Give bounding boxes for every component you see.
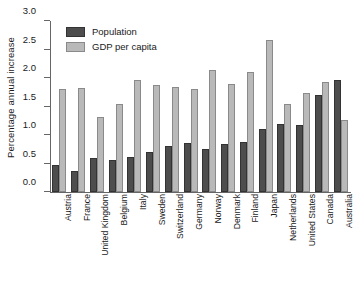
x-axis-label: Germany (194, 194, 204, 230)
bar-population (146, 152, 153, 192)
legend-label-population: Population (92, 26, 137, 37)
x-axis-label: United Kingdom (100, 194, 110, 256)
bar-group (315, 21, 329, 192)
bar-group (202, 21, 216, 192)
bar-gdp-per-capita (116, 104, 123, 192)
x-axis-label: Netherlands (288, 194, 298, 241)
bar-population (296, 125, 303, 192)
bar-group (259, 21, 273, 192)
legend-label-gdp-per-capita: GDP per capita (92, 41, 157, 52)
y-axis-tick-label: 1.0 (23, 119, 36, 130)
bar-population (52, 165, 59, 192)
bar-group (52, 21, 66, 192)
x-axis-label: Switzerland (175, 194, 185, 239)
bar-group (165, 21, 179, 192)
bar-population (202, 149, 209, 192)
y-axis-tick-label: 2.5 (23, 33, 36, 44)
bar-group (221, 21, 235, 192)
bar-gdp-per-capita (322, 82, 329, 192)
y-axis-tick-label: 0.0 (23, 176, 36, 187)
bar-population (109, 160, 116, 192)
legend-swatch-population-icon (66, 27, 85, 37)
x-axis-label: United States (307, 194, 317, 246)
bar-gdp-per-capita (153, 85, 160, 192)
bar-gdp-per-capita (97, 117, 104, 192)
x-axis-label: France (82, 194, 92, 221)
x-axis-labels: AustriaFranceUnited KingdomBelgiumItalyS… (50, 194, 350, 286)
bar-population (334, 80, 341, 192)
bar-chart-figure: Percentage annual increase 0.00.51.01.52… (0, 0, 357, 290)
bar-group (277, 21, 291, 192)
bar-gdp-per-capita (172, 87, 179, 192)
bar-gdp-per-capita (228, 84, 235, 192)
bar-group (184, 21, 198, 192)
bar-gdp-per-capita (59, 89, 66, 192)
bar-population (240, 142, 247, 192)
y-axis-tick-label: 3.0 (23, 5, 36, 16)
x-axis-label: Belgium (119, 194, 129, 225)
bar-population (259, 129, 266, 192)
bar-population (71, 171, 78, 192)
bar-population (315, 95, 322, 192)
x-axis-label: Japan (269, 194, 279, 218)
bar-population (127, 157, 134, 192)
bar-gdp-per-capita (266, 40, 273, 192)
bar-gdp-per-capita (303, 93, 310, 192)
legend-item-gdp-per-capita: GDP per capita (66, 41, 157, 52)
y-axis-tick-label: 0.5 (23, 147, 36, 158)
y-axis-title: Percentage annual increase (0, 0, 20, 195)
bar-gdp-per-capita (134, 80, 141, 192)
y-axis-tick-label: 1.5 (23, 90, 36, 101)
bar-gdp-per-capita (284, 104, 291, 192)
x-axis-label: Denmark (232, 194, 242, 229)
y-axis-title-text: Percentage annual increase (5, 37, 16, 158)
bar-gdp-per-capita (209, 70, 216, 192)
bar-group (334, 21, 348, 192)
legend-swatch-gdp-icon (66, 42, 85, 52)
x-axis-label: Sweden (157, 194, 167, 225)
chart-legend: Population GDP per capita (66, 26, 157, 56)
bar-population (277, 124, 284, 192)
x-axis-label: Australia (344, 194, 354, 228)
bar-group (296, 21, 310, 192)
y-axis-tick-label: 2.0 (23, 62, 36, 73)
bar-population (184, 143, 191, 192)
bar-population (221, 144, 228, 192)
bar-population (165, 146, 172, 192)
bar-gdp-per-capita (247, 72, 254, 192)
bar-gdp-per-capita (341, 120, 348, 192)
bar-group (240, 21, 254, 192)
x-axis-label: Italy (138, 194, 148, 210)
x-axis-label: Norway (213, 194, 223, 223)
legend-item-population: Population (66, 26, 157, 37)
bar-gdp-per-capita (78, 88, 85, 192)
bar-gdp-per-capita (191, 89, 198, 192)
bar-population (90, 158, 97, 192)
x-axis-label: Austria (63, 194, 73, 221)
x-axis-label: Finland (250, 194, 260, 223)
x-axis-label: Canada (325, 194, 335, 224)
